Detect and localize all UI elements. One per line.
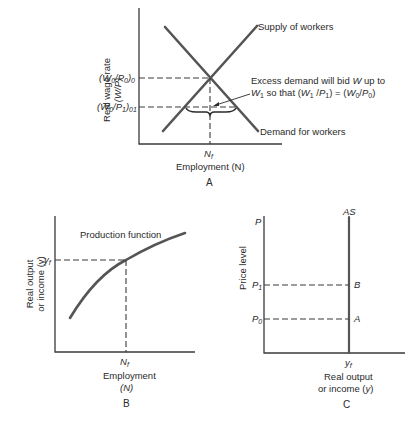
demand-label: Demand for workers bbox=[260, 126, 346, 137]
panel-c-graphics bbox=[264, 216, 405, 353]
supply-label: Supply of workers bbox=[258, 21, 334, 32]
panel-b-x-axis-label-line2: (N) bbox=[120, 382, 133, 393]
panel-c-x-axis-label-line2: or income (y) bbox=[318, 383, 373, 394]
annotation-arrowhead bbox=[213, 102, 219, 106]
excess-demand-brace bbox=[186, 108, 236, 115]
y-tick-w0-p1: (W0/P1)01 bbox=[97, 101, 137, 115]
panel-a-y-axis-label: Real wage rate (W/P) bbox=[101, 50, 125, 130]
y-tick-p1: P1 bbox=[252, 279, 262, 293]
production-function-label: Production function bbox=[80, 229, 161, 240]
panel-a-x-axis-label: Employment (N) bbox=[176, 161, 245, 172]
y-axis-label-line1: Real output bbox=[24, 244, 35, 324]
y-tick-yf-b: yf bbox=[44, 254, 51, 268]
x-tick-yf-c: yf bbox=[345, 357, 352, 371]
y-axis-top-p: P bbox=[255, 216, 261, 227]
y-tick-p0: P0 bbox=[252, 313, 262, 327]
x-tick-nf-a: Nf bbox=[204, 148, 213, 162]
panel-c-y-axis-label: Price level bbox=[237, 233, 249, 303]
panel-b-x-axis-label-line1: Employment bbox=[103, 370, 156, 381]
x-tick-nf-b: Nf bbox=[120, 356, 129, 370]
y-tick-w0-p0: (W0/P0)0 bbox=[99, 72, 135, 86]
as-label: AS bbox=[343, 206, 356, 217]
panel-b-letter: B bbox=[123, 398, 130, 409]
point-b-label: B bbox=[354, 279, 360, 290]
production-function-curve bbox=[70, 233, 185, 318]
panel-c-letter: C bbox=[343, 399, 350, 410]
annotation-line2: W1 so that (W1 /P1) = (W0/P0) bbox=[251, 87, 375, 101]
point-a-label: A bbox=[354, 313, 360, 324]
panel-a-letter: A bbox=[206, 177, 213, 188]
panel-c-x-axis-label-line1: Real output bbox=[324, 371, 373, 382]
demand-curve bbox=[165, 27, 258, 131]
y-axis-label-line2: (W/P) bbox=[112, 50, 123, 130]
annotation-line1: Excess demand will bid W up to bbox=[251, 75, 385, 86]
y-axis-label-line1: Real wage rate bbox=[101, 50, 112, 130]
